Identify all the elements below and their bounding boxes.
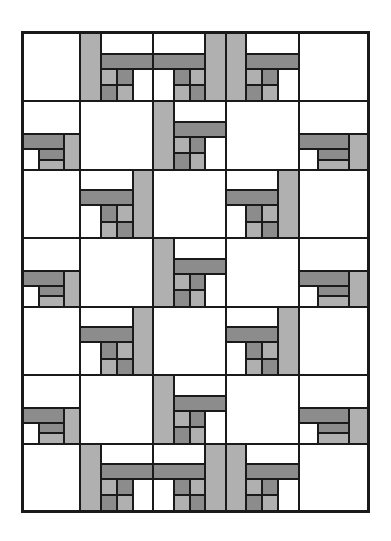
quilt-patch-dark	[80, 190, 133, 205]
quilt-patch-light	[117, 205, 133, 221]
quilt-patch-white	[80, 307, 133, 328]
quilt-patch-dark	[23, 134, 64, 149]
quilt-patch-white	[133, 479, 153, 511]
quilt-patch-light	[153, 101, 173, 169]
quilt-patch-light	[39, 160, 64, 170]
quilt-patch-white	[299, 444, 368, 511]
quilt-patch-dark	[262, 222, 278, 238]
quilt-patch-light	[174, 137, 190, 153]
quilt-patch-light	[117, 495, 133, 511]
quilt-patch-light	[262, 205, 278, 221]
quilt-block-r2-c5	[299, 101, 368, 169]
quilt-patch-dark	[101, 54, 154, 69]
quilt-patch-white	[299, 33, 368, 101]
quilt-patch-light	[101, 359, 117, 375]
quilt-patch-white	[153, 170, 225, 238]
quilt-block-r4-c2	[80, 238, 153, 306]
quilt-block-r2-c4	[226, 101, 299, 169]
quilt-patch-white	[226, 238, 299, 306]
quilt-block-r7-c4	[226, 444, 299, 511]
quilt-patch-light	[318, 433, 348, 443]
quilt-patch-light	[39, 296, 64, 306]
quilt-patch-light	[174, 495, 190, 511]
quilt-block-r5-c4	[226, 307, 299, 375]
quilt-patch-light	[318, 160, 348, 170]
quilt-patch-dark	[226, 190, 279, 205]
quilt-patch-dark	[318, 286, 348, 296]
quilt-patch-white	[226, 170, 279, 191]
quilt-patch-dark	[226, 327, 279, 342]
quilt-patch-light	[101, 222, 117, 238]
quilt-patch-white	[226, 101, 299, 169]
quilt-patch-light	[80, 444, 100, 511]
quilt-patch-dark	[318, 149, 348, 159]
quilt-patch-dark	[101, 464, 154, 479]
quilt-block-r1-c5	[299, 33, 368, 101]
quilt-patch-white	[174, 101, 226, 122]
quilt-patch-white	[299, 286, 318, 307]
quilt-block-r1-c4	[226, 33, 299, 101]
quilt-patch-light	[133, 170, 153, 238]
quilt-patch-white	[80, 238, 153, 306]
quilt-patch-dark	[246, 205, 262, 221]
quilt-patch-dark	[174, 69, 190, 85]
quilt-patch-white	[226, 342, 246, 375]
quilt-patch-light	[174, 85, 190, 101]
quilt-patch-dark	[190, 274, 206, 290]
quilt-patch-light	[349, 408, 368, 444]
quilt-patch-dark	[246, 85, 262, 101]
quilt-patch-white	[101, 33, 154, 54]
quilt-block-r5-c3	[153, 307, 225, 375]
quilt-patch-dark	[262, 479, 278, 495]
quilt-patch-light	[246, 359, 262, 375]
quilt-block-r4-c5	[299, 238, 368, 306]
quilt-patch-dark	[101, 342, 117, 358]
quilt-patch-white	[153, 307, 225, 375]
quilt-patch-light	[39, 433, 64, 443]
quilt-patch-white	[133, 69, 153, 102]
quilt-patch-light	[117, 342, 133, 358]
quilt-patch-light	[64, 271, 80, 307]
quilt-patch-white	[23, 375, 80, 408]
quilt-block-r4-c3	[153, 238, 225, 306]
quilt-patch-dark	[174, 427, 190, 443]
quilt-patch-dark	[117, 359, 133, 375]
quilt-block-r3-c4	[226, 170, 299, 238]
quilt-patch-white	[23, 238, 80, 271]
quilt-patch-white	[174, 375, 226, 396]
quilt-patch-white	[23, 33, 80, 101]
quilt-block-r6-c3	[153, 375, 225, 443]
quilt-block-r1-c2	[80, 33, 153, 101]
quilt-patch-light	[64, 134, 80, 170]
quilt-patch-light	[174, 274, 190, 290]
quilt-block-r7-c1	[23, 444, 80, 511]
quilt-patch-dark	[174, 122, 226, 137]
quilt-patch-dark	[101, 495, 117, 511]
quilt-patch-dark	[190, 495, 206, 511]
quilt-patch-white	[299, 149, 318, 170]
quilt-patch-white	[153, 444, 205, 464]
quilt-patch-dark	[174, 153, 190, 169]
quilt-block-r6-c1	[23, 375, 80, 443]
quilt-patch-white	[174, 238, 226, 259]
quilt-block-r2-c2	[80, 101, 153, 169]
quilt-patch-white	[23, 170, 80, 238]
quilt-patch-white	[23, 286, 39, 307]
quilt-patch-white	[226, 375, 299, 443]
quilt-block-r4-c1	[23, 238, 80, 306]
quilt-patch-light	[190, 479, 206, 495]
quilt-patch-white	[80, 342, 100, 375]
quilt-patch-light	[101, 69, 117, 85]
quilt-patch-white	[153, 69, 173, 102]
quilt-patch-dark	[117, 479, 133, 495]
quilt-patch-dark	[39, 286, 64, 296]
quilt-patch-light	[153, 375, 173, 443]
quilt-block-r3-c2	[80, 170, 153, 238]
quilt-block-r5-c5	[299, 307, 368, 375]
quilt-patch-white	[153, 33, 205, 54]
quilt-patch-dark	[299, 134, 349, 149]
quilt-patch-dark	[153, 464, 205, 479]
quilt-patch-white	[80, 375, 153, 443]
quilt-patch-dark	[246, 495, 262, 511]
quilt-block-r2-c3	[153, 101, 225, 169]
